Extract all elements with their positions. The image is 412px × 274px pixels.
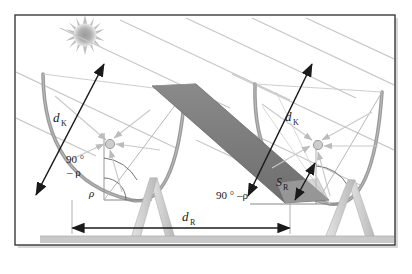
- label-aperture-right-symbol: d: [285, 109, 292, 124]
- label-aperture-left-subscript: K: [61, 119, 67, 128]
- ground-strip: [40, 236, 396, 243]
- focal-receiver-left: [105, 139, 114, 148]
- label-angle-complement-left-line2: – ρ: [66, 166, 81, 178]
- label-shadow-subscript: R: [283, 183, 289, 192]
- label-aperture-left-symbol: d: [53, 110, 60, 125]
- label-row-distance-subscript: R: [190, 218, 196, 227]
- solar-collector-diagram: d K d K d R S R 90 ° – ρ ρ 90 ° –ρ: [0, 0, 412, 274]
- label-angle-complement-right: 90 ° –ρ: [216, 189, 248, 201]
- label-row-distance-symbol: d: [182, 209, 189, 224]
- label-angle-rho-left: ρ: [88, 187, 94, 199]
- label-angle-complement-left-line1: 90 °: [66, 153, 84, 165]
- label-aperture-right-subscript: K: [293, 118, 299, 127]
- focal-receiver-right: [313, 140, 322, 149]
- label-shadow-symbol: S: [276, 175, 282, 189]
